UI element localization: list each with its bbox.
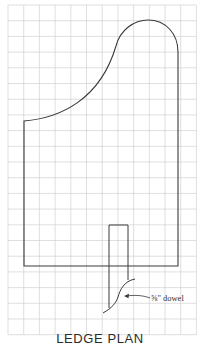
ledge-plan-diagram: ⅝" dowel (0, 0, 200, 352)
figure-subtitle (0, 347, 200, 352)
dowel-label: ⅝" dowel (151, 293, 184, 303)
arrow-head-icon (124, 294, 129, 298)
leader-line (126, 295, 150, 298)
ledge-outline (24, 20, 178, 266)
dowel-break-line (103, 279, 135, 313)
grid (8, 5, 196, 335)
figure-title: LEDGE PLAN (0, 331, 200, 346)
dowel-callout: ⅝" dowel (124, 293, 184, 303)
dowel (103, 225, 135, 313)
